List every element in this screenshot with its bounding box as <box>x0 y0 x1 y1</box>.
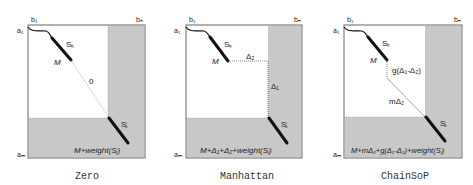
label-am: aₘ <box>174 151 182 158</box>
label-gap-penalty: g(Δ₁-Δ₂) <box>392 66 421 75</box>
label-sj: Sⱼ <box>121 120 127 129</box>
label-result: M+weight(Sⱼ) <box>74 146 120 155</box>
label-path-cost: 0 <box>89 77 94 86</box>
label-delta2: Δ₂ <box>246 52 254 61</box>
label-bn: bₙ <box>294 16 301 23</box>
diagram-canvas: b₁ bₙ a₁ aₘ Sₖ M 0 Sⱼ M+weight(Sⱼ) Zero … <box>0 0 473 185</box>
label-bn: bₙ <box>136 16 143 23</box>
label-result: M+Δ₁+Δ₂+weight(Sⱼ) <box>200 146 272 155</box>
label-sk: Sₖ <box>382 39 390 48</box>
label-m: M <box>370 56 377 65</box>
label-a1: a₁ <box>333 27 340 34</box>
label-sj: Sⱼ <box>281 120 287 129</box>
label-a1: a₁ <box>174 27 181 34</box>
panel-chainsop: b₁ bₙ a₁ aₘ Sₖ M g(Δ₁-Δ₂) mΔ₂ Sⱼ M+mΔ₂+g… <box>333 16 462 182</box>
label-sk: Sₖ <box>66 40 74 49</box>
label-m: M <box>212 57 219 66</box>
label-m: M <box>54 58 61 67</box>
panel-zero: b₁ bₙ a₁ aₘ Sₖ M 0 Sⱼ M+weight(Sⱼ) Zero <box>17 16 145 182</box>
panel-manhattan: b₁ bₙ a₁ aₘ Sₖ M Δ₂ Δ₁ Sⱼ M+Δ₁+Δ₂+weight… <box>174 16 302 182</box>
label-b1: b₁ <box>31 16 38 23</box>
label-a1: a₁ <box>17 27 24 34</box>
label-sj: Sⱼ <box>440 119 446 128</box>
label-m-delta2: mΔ₂ <box>389 97 404 106</box>
caption-zero: Zero <box>75 171 99 182</box>
label-sk: Sₖ <box>224 40 232 49</box>
label-am: aₘ <box>17 151 25 158</box>
label-result: M+mΔ₂+g(Δ₁-Δ₂)+weight(Sⱼ) <box>351 146 445 155</box>
label-bn: bₙ <box>454 16 461 23</box>
caption-manhattan: Manhattan <box>220 171 274 182</box>
caption-chainsop: ChainSoP <box>381 171 429 182</box>
label-am: aₘ <box>333 151 341 158</box>
label-b1: b₁ <box>347 16 354 23</box>
label-delta1: Δ₁ <box>271 82 279 91</box>
label-b1: b₁ <box>189 16 196 23</box>
